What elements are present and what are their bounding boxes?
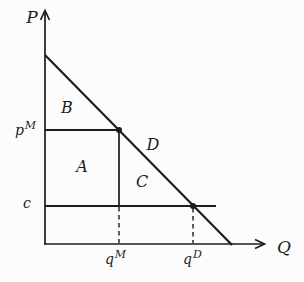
demand-quantity-superscript: D	[193, 248, 202, 261]
monopoly-diagram: P Q B A C D pM c qM qD	[0, 0, 304, 282]
marginal-cost-label: c	[23, 196, 31, 210]
monopoly-price-base: p	[15, 122, 24, 138]
region-c-label: C	[136, 174, 148, 190]
region-d-label: D	[147, 137, 160, 153]
region-a-label: A	[76, 159, 88, 175]
y-axis-label: P	[26, 9, 37, 26]
monopoly-quantity-base: q	[105, 251, 114, 267]
monopoly-quantity-superscript: M	[115, 248, 126, 261]
competitive-point-marker	[190, 203, 196, 209]
monopoly-price-label: pM	[15, 121, 35, 138]
x-axis-label: Q	[277, 239, 291, 256]
monopoly-price-superscript: M	[25, 119, 36, 132]
monopoly-point-marker	[116, 127, 122, 133]
demand-curve	[45, 55, 232, 245]
demand-quantity-label: qD	[183, 250, 201, 267]
demand-quantity-base: q	[183, 251, 192, 267]
region-b-label: B	[61, 100, 73, 116]
monopoly-quantity-label: qM	[105, 250, 125, 267]
